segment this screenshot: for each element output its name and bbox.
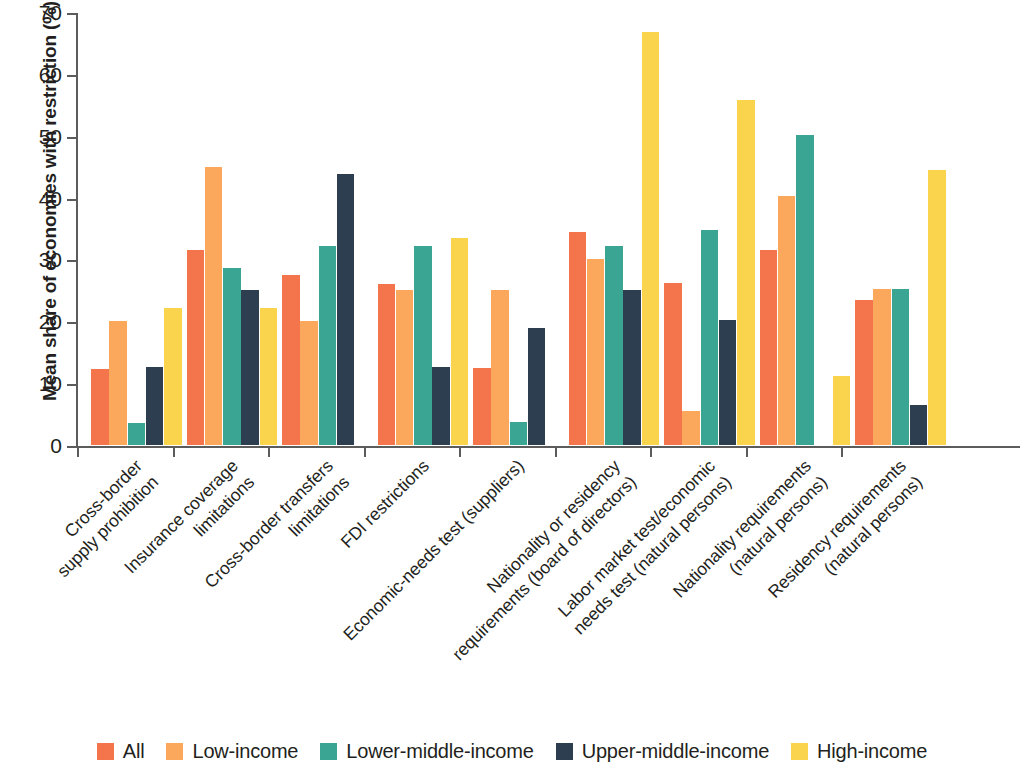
- bar: [623, 290, 641, 445]
- legend-label: All: [123, 740, 145, 763]
- x-axis-tick: [268, 448, 270, 457]
- bar: [569, 232, 587, 445]
- y-axis-tick: [67, 13, 76, 15]
- x-axis-tick: [173, 448, 175, 457]
- x-axis-tick: [364, 448, 366, 457]
- bar: [910, 405, 928, 445]
- bar: [760, 250, 778, 445]
- bar: [719, 320, 737, 445]
- bar-chart: Mean share of economies with restriction…: [0, 0, 1024, 769]
- bar: [319, 246, 337, 445]
- x-axis-tick: [77, 448, 79, 457]
- x-axis-tick: [746, 448, 748, 457]
- x-axis-tick: [650, 448, 652, 457]
- bar: [241, 290, 259, 445]
- bar-group: [378, 12, 470, 445]
- legend-label: Upper-middle-income: [582, 740, 769, 763]
- x-axis-tick: [459, 448, 461, 457]
- bar: [396, 290, 414, 445]
- bar-group: [760, 12, 852, 445]
- legend-swatch-icon: [791, 743, 808, 760]
- bar: [605, 246, 623, 445]
- bar-group: [569, 12, 661, 445]
- y-axis-tick-label: 0: [4, 435, 62, 456]
- legend-label: Lower-middle-income: [346, 740, 533, 763]
- bar: [205, 167, 223, 445]
- legend-item[interactable]: High-income: [791, 740, 927, 763]
- bar: [796, 135, 814, 445]
- y-axis-tick: [67, 260, 76, 262]
- bar-group: [282, 12, 374, 445]
- x-axis-tick: [555, 448, 557, 457]
- y-axis-tick-label: 50: [4, 126, 62, 147]
- bar: [855, 300, 873, 445]
- bar: [187, 250, 205, 445]
- bar-group: [91, 12, 183, 445]
- y-axis-tick: [67, 446, 76, 448]
- bar: [282, 275, 300, 445]
- bar: [682, 411, 700, 445]
- y-axis-tick-label: 30: [4, 249, 62, 270]
- bar: [164, 308, 182, 445]
- y-axis-tick: [67, 75, 76, 77]
- legend-label: Low-income: [192, 740, 298, 763]
- bar: [642, 32, 660, 445]
- y-axis-tick-label: 40: [4, 188, 62, 209]
- bar: [701, 230, 719, 445]
- plot-area: [76, 13, 1020, 447]
- y-axis-tick-label: 10: [4, 373, 62, 394]
- bar: [146, 367, 164, 445]
- bar: [300, 321, 318, 445]
- bar: [873, 289, 891, 445]
- legend-item[interactable]: Low-income: [166, 740, 298, 763]
- bar-group: [855, 12, 947, 445]
- bar: [473, 368, 491, 445]
- bar: [664, 283, 682, 445]
- legend-swatch-icon: [97, 743, 114, 760]
- bar: [491, 290, 509, 445]
- bar: [737, 100, 755, 445]
- x-axis-tick: [841, 448, 843, 457]
- bar: [128, 423, 146, 445]
- legend-item[interactable]: Upper-middle-income: [556, 740, 769, 763]
- y-axis-tick-label: 60: [4, 64, 62, 85]
- y-axis-tick: [67, 199, 76, 201]
- y-axis-tick-label: 70: [4, 2, 62, 23]
- chart-legend: AllLow-incomeLower-middle-incomeUpper-mi…: [0, 740, 1024, 763]
- bar: [337, 174, 355, 445]
- bar: [587, 259, 605, 445]
- y-axis-tick-label: 20: [4, 311, 62, 332]
- legend-item[interactable]: All: [97, 740, 145, 763]
- bar: [91, 369, 109, 445]
- bar: [432, 367, 450, 445]
- bar: [928, 170, 946, 445]
- legend-swatch-icon: [556, 743, 573, 760]
- bar: [528, 328, 546, 445]
- bar-group: [473, 12, 565, 445]
- y-axis-tick: [67, 384, 76, 386]
- bar: [451, 238, 469, 445]
- bar: [223, 268, 241, 445]
- bar: [260, 308, 278, 445]
- y-axis-line: [76, 13, 78, 448]
- bar: [378, 284, 396, 445]
- bar: [892, 289, 910, 445]
- bar: [778, 196, 796, 445]
- y-axis-tick: [67, 137, 76, 139]
- bar: [510, 422, 528, 446]
- y-axis-tick: [67, 322, 76, 324]
- bar-group: [187, 12, 279, 445]
- legend-swatch-icon: [166, 743, 183, 760]
- x-axis-line: [76, 446, 1020, 448]
- bar: [414, 246, 432, 445]
- bar-group: [664, 12, 756, 445]
- bar: [109, 321, 127, 445]
- legend-item[interactable]: Lower-middle-income: [320, 740, 533, 763]
- bar: [833, 376, 851, 445]
- legend-swatch-icon: [320, 743, 337, 760]
- legend-label: High-income: [817, 740, 927, 763]
